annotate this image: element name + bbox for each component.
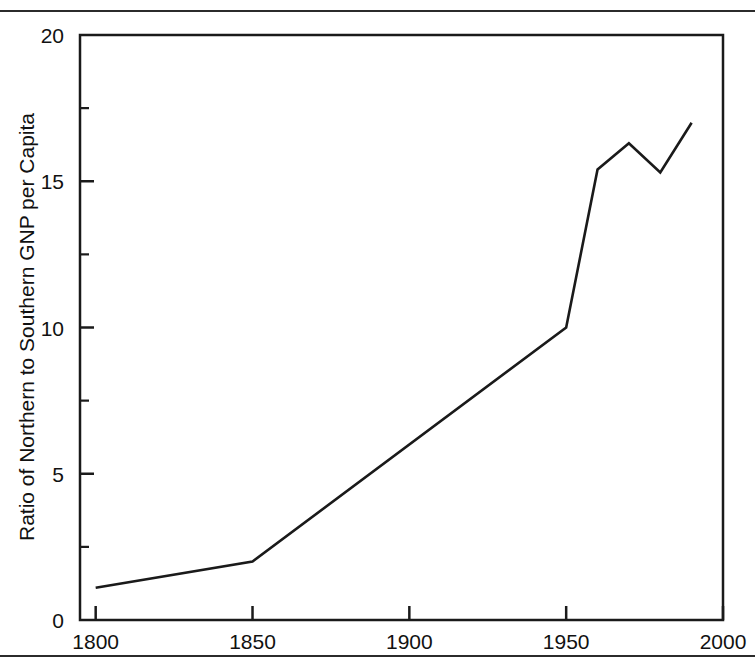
- x-axis-tick-labels: 18001850190019502000: [72, 630, 746, 653]
- y-axis-title: Ratio of Northern to Southern GNP per Ca…: [15, 113, 38, 541]
- y-tick-label: 15: [41, 170, 64, 193]
- line-chart: 05101520 18001850190019502000 Ratio of N…: [0, 0, 755, 669]
- data-series-line: [96, 123, 692, 588]
- plot-area-border: [80, 35, 723, 620]
- x-axis-major-ticks: [96, 606, 723, 620]
- y-tick-label: 0: [52, 609, 64, 632]
- y-tick-label: 10: [41, 317, 64, 340]
- x-tick-label: 1800: [72, 630, 119, 653]
- y-axis-tick-labels: 05101520: [41, 24, 64, 632]
- x-tick-label: 1900: [386, 630, 433, 653]
- y-tick-label: 5: [52, 463, 64, 486]
- x-tick-label: 2000: [700, 630, 747, 653]
- x-tick-label: 1850: [229, 630, 276, 653]
- x-tick-label: 1950: [543, 630, 590, 653]
- y-axis-major-ticks: [80, 181, 94, 474]
- y-tick-label: 20: [41, 24, 64, 47]
- figure-container: 05101520 18001850190019502000 Ratio of N…: [0, 0, 755, 669]
